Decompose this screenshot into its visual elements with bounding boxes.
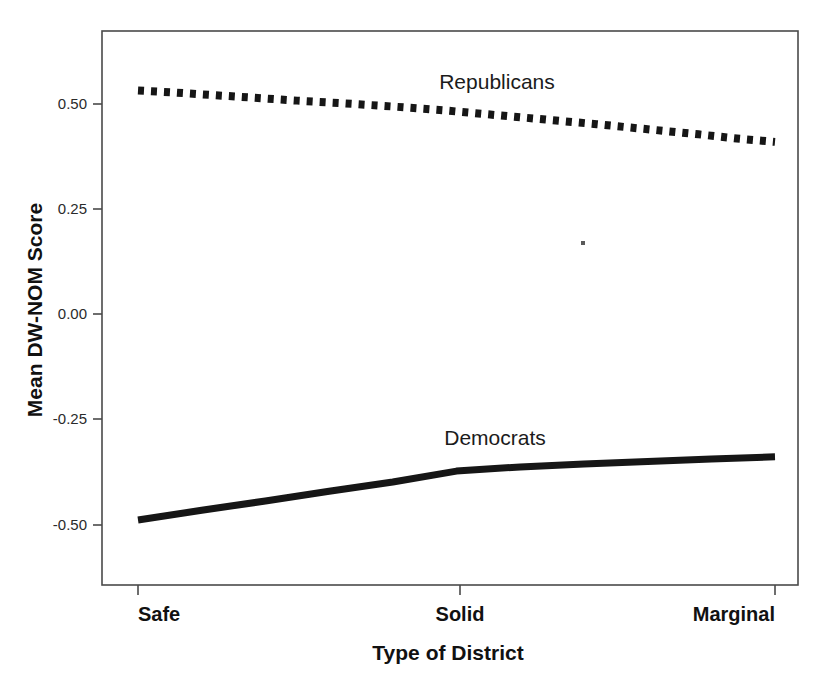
chart-figure: 0.500.250.00-0.25-0.50 SafeSolidMarginal… <box>0 0 835 698</box>
democrats-series-label: Democrats <box>444 426 546 449</box>
x-tick-label-0: Safe <box>138 603 180 625</box>
series-line-republicans <box>138 91 775 142</box>
y-axis-title: Mean DW-NOM Score <box>23 203 46 417</box>
republicans-series-label: Republicans <box>439 70 555 93</box>
y-tick-label-2: 0.00 <box>58 305 87 322</box>
x-tick-label-1: Solid <box>436 603 485 625</box>
x-tick-label-2: Marginal <box>693 603 775 625</box>
data-series-layer <box>138 91 775 520</box>
series-line-democrats <box>138 457 775 520</box>
y-tick-label-0: 0.50 <box>58 95 87 112</box>
y-tick-label-1: 0.25 <box>58 200 87 217</box>
x-axis-title: Type of District <box>372 641 523 664</box>
chart-canvas: 0.500.250.00-0.25-0.50 SafeSolidMarginal… <box>0 0 835 698</box>
y-tick-label-3: -0.25 <box>53 410 87 427</box>
x-axis-tick-labels: SafeSolidMarginal <box>138 603 775 625</box>
y-axis-tick-labels: 0.500.250.00-0.25-0.50 <box>53 95 87 533</box>
scan-speck-artifact <box>581 241 585 245</box>
y-tick-label-4: -0.50 <box>53 516 87 533</box>
x-axis-ticks <box>138 585 775 595</box>
y-axis-ticks <box>93 104 102 525</box>
